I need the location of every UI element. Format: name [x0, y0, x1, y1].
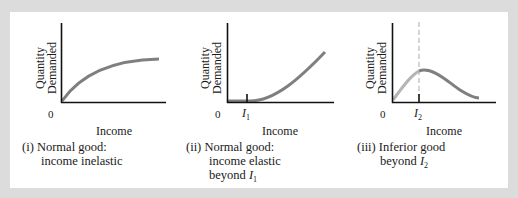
- tick-label-i2: I2: [414, 106, 422, 122]
- y-label-line2: Demanded: [376, 33, 388, 103]
- x-axis-label-i: Income: [96, 124, 132, 139]
- tick-sub: 1: [246, 113, 250, 122]
- caption-prefix: beyond: [209, 168, 249, 182]
- y-axis-label-i: Quantity Demanded: [34, 33, 60, 103]
- curve-iii-rising: [393, 71, 419, 100]
- origin-label-i: 0: [48, 108, 54, 120]
- curve-ii: [228, 52, 325, 101]
- caption-iii-line1: (iii) Inferior good: [357, 140, 445, 154]
- caption-i-line2: income inelastic: [22, 154, 123, 168]
- x-axis-label-iii: Income: [426, 124, 462, 139]
- tick-label-i1: I1: [242, 106, 250, 122]
- curve-i: [62, 59, 159, 101]
- y-axis-label-ii: Quantity Demanded: [199, 33, 225, 103]
- chart-i: [61, 23, 166, 103]
- caption-i: (i) Normal good: income inelastic: [22, 140, 123, 168]
- tick-sub: 2: [418, 113, 422, 122]
- caption-ii-line1: (ii) Normal good:: [186, 140, 281, 154]
- caption-ii-line3: beyond I1: [186, 168, 281, 187]
- y-label-line2: Demanded: [211, 33, 223, 103]
- caption-iii: (iii) Inferior good beyond I2: [357, 140, 445, 173]
- caption-iii-line2: beyond I2: [357, 154, 445, 173]
- y-axis-label-iii: Quantity Demanded: [364, 33, 390, 103]
- caption-prefix: beyond: [380, 154, 420, 168]
- caption-ii-line2: income elastic: [186, 154, 281, 168]
- curve-iii-falling: [419, 70, 479, 98]
- chart-iii: [392, 22, 496, 103]
- caption-sub: 1: [253, 175, 257, 184]
- origin-label-ii: 0: [215, 108, 221, 120]
- caption-ii: (ii) Normal good: income elastic beyond …: [186, 140, 281, 187]
- caption-i-line1: (i) Normal good:: [22, 140, 123, 154]
- origin-label-iii: 0: [380, 108, 386, 120]
- x-axis-label-ii: Income: [262, 124, 298, 139]
- chart-ii: [227, 23, 334, 103]
- caption-sub: 2: [424, 161, 428, 170]
- y-label-line2: Demanded: [46, 33, 58, 103]
